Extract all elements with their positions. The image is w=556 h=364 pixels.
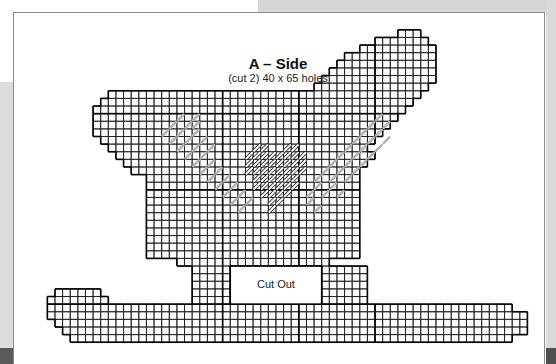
cutout-label: Cut Out (230, 278, 321, 290)
pattern-subtitle: (cut 2) 40 x 65 holes (0, 72, 556, 85)
pattern-heading: A – Side (cut 2) 40 x 65 holes (0, 55, 556, 85)
pattern-title: A – Side (0, 55, 556, 72)
